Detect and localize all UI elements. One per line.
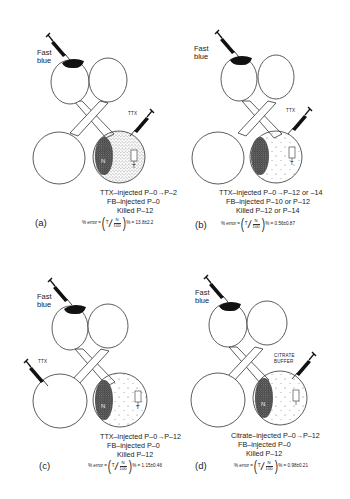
panel-d: Fast blue CITRATE BUFFER N Citrate–injec… <box>175 250 350 499</box>
region-t-box <box>131 150 137 161</box>
timeline-line-2: FB–injected P–0 <box>107 198 160 205</box>
region-t-label: T <box>132 163 136 169</box>
region-n-label: N <box>101 403 105 409</box>
timeline-line-3: Killed P–12 or P–14 <box>236 207 300 214</box>
timeline-line-2: FB–injected P–10 or P–12 <box>226 198 310 205</box>
fast-blue-label: Fast blue <box>195 289 210 306</box>
panel-c: Fast blue TTX N T TTX–injected P–0→P–12 … <box>0 250 175 499</box>
panel-label: (b) <box>195 220 207 230</box>
panel-label: (c) <box>39 461 50 471</box>
error-formula: % error = ( T/ N100 ) % = 0.56±0.87 <box>221 217 295 231</box>
timeline-line-1: TTX–injected P–0→P–12 or –14 <box>219 189 322 196</box>
top-right-lobe <box>89 58 127 102</box>
timeline-line-3: Killed P–12 <box>117 207 153 214</box>
bottom-left-lobe <box>33 132 85 184</box>
region-t-box <box>293 390 299 401</box>
timeline-line-3: Killed P–12 <box>117 451 153 458</box>
fast-blue-label: Fast blue <box>37 293 52 310</box>
agent-label: CITRATE BUFFER <box>274 353 295 364</box>
region-n <box>95 137 113 175</box>
chiasm <box>70 101 114 138</box>
error-formula: % error = ( T/ N100 ) % = 0.98±0.21 <box>234 459 308 473</box>
region-t-label: T <box>136 404 140 410</box>
region-t-box <box>289 147 295 158</box>
panel-label: (d) <box>195 461 207 471</box>
region-n <box>251 137 269 175</box>
region-n-label: N <box>101 158 105 164</box>
timeline-line-3: Killed P–12 <box>246 450 282 457</box>
agent-label: TTX <box>128 112 137 117</box>
panel-b: Fast blue TTX T TTX–injected P–0→P–12 or… <box>175 0 350 249</box>
timeline-line-1: TTX–injected P–0→P–12 <box>100 433 181 440</box>
timeline-line-1: TTX–injected P–0→P–2 <box>100 189 177 196</box>
region-n-label: N <box>261 401 265 407</box>
error-formula: % error = ( T/ N100 ) % = 1.15±0.46 <box>88 459 162 473</box>
region-t-label: T <box>290 160 294 166</box>
fast-blue-syringe-icon <box>215 30 239 57</box>
timeline-line-2: FB–injected P–0 <box>238 441 291 448</box>
citrate-syringe-icon <box>292 352 316 379</box>
agent-label: TTX <box>38 360 47 365</box>
region-n <box>255 378 273 418</box>
panel-a: Fast blue TTX N T TTX–injected P–0→P–2 F… <box>0 0 175 249</box>
panel-label: (a) <box>35 218 47 228</box>
region-n <box>95 380 113 420</box>
region-t-box <box>135 391 141 402</box>
error-formula: % error = ( T/ N100 ) % = 13.8±2.2 <box>82 216 153 230</box>
timeline-line-1: Citrate–injected P–0→P–12 <box>231 432 320 439</box>
timeline-line-2: FB–injected P–0 <box>107 442 160 449</box>
fast-blue-label: Fast blue <box>37 49 52 66</box>
agent-label: TTX <box>286 109 295 114</box>
fast-blue-label: Fast blue <box>194 45 209 62</box>
